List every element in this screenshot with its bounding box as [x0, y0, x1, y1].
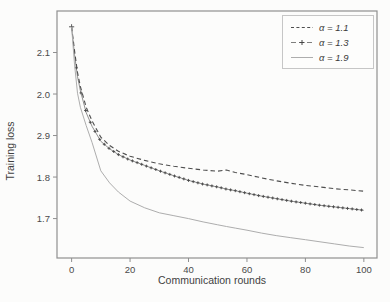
legend: α = 1.1 α = 1.3 α = 1.9	[282, 15, 374, 69]
x-tick-label: 100	[356, 264, 372, 275]
y-axis-title: Training loss	[4, 121, 16, 180]
x-axis-title: Communication rounds	[158, 274, 266, 286]
y-tick-label: 2.1	[37, 47, 50, 58]
y-tick-label: 1.7	[37, 213, 50, 224]
x-tick-label: 20	[125, 264, 136, 275]
legend-label: α = 1.9	[319, 52, 348, 63]
legend-item-alpha-1-1: α = 1.1	[290, 20, 368, 34]
x-tick-label: 80	[300, 264, 311, 275]
legend-item-alpha-1-9: α = 1.9	[290, 50, 368, 64]
legend-label: α = 1.3	[319, 37, 348, 48]
y-tick-label: 2.9	[37, 130, 50, 141]
dash-plus-line-icon	[290, 38, 314, 47]
x-tick-label: 0	[69, 264, 74, 275]
y-tick-label: 1.8	[37, 172, 50, 183]
legend-label: α = 1.1	[319, 22, 348, 33]
y-tick-label: 2.0	[37, 89, 50, 100]
dashed-line-icon	[290, 23, 314, 32]
legend-item-alpha-1-3: α = 1.3	[290, 35, 368, 49]
training-loss-figure: 0204060801002.12.02.91.81.7Training loss…	[0, 0, 390, 302]
solid-line-icon	[290, 53, 314, 62]
